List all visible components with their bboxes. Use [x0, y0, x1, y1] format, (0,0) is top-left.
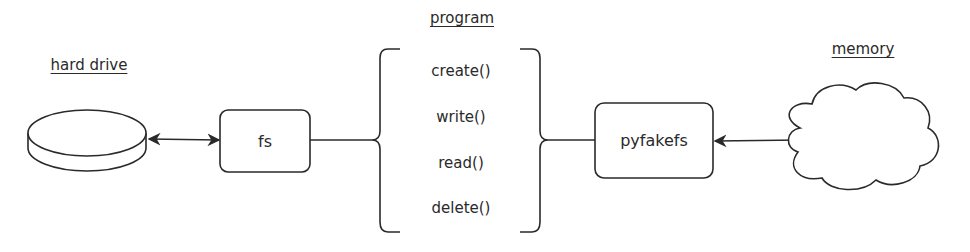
left-brace [372, 49, 400, 232]
hard-drive-disk-icon [28, 110, 146, 171]
function-delete: delete() [432, 199, 491, 217]
right-brace [520, 49, 548, 232]
arrow-disk-fs [149, 139, 219, 140]
memory-label: memory [832, 40, 895, 58]
memory-cloud-icon [788, 83, 938, 190]
function-create: create() [431, 62, 490, 80]
fs-label: fs [220, 110, 310, 172]
hard-drive-label: hard drive [51, 56, 128, 74]
pyfakefs-label: pyfakefs [595, 103, 713, 178]
function-write: write() [436, 108, 485, 126]
program-label: program [430, 9, 494, 27]
function-read: read() [438, 154, 483, 172]
